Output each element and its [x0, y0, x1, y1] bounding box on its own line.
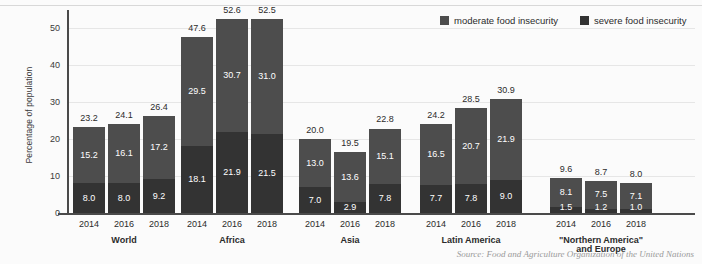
x-axis-year-label: 2016: [334, 220, 366, 229]
legend-item-severe: severe food insecurity: [580, 16, 686, 26]
bar-stack[interactable]: 24.116.18.0: [108, 124, 140, 213]
y-axis-tick-label: 10: [40, 172, 60, 181]
legend-item-moderate: moderate food insecurity: [440, 16, 558, 26]
bar-total-label: 24.1: [108, 111, 140, 120]
bar-segment-severe[interactable]: 1.2: [585, 209, 617, 213]
bar-segment-severe[interactable]: 7.0: [299, 187, 331, 213]
bar-segment-moderate[interactable]: 20.7: [455, 108, 487, 184]
bar-total-label: 20.0: [299, 126, 331, 135]
bar-segment-severe[interactable]: 2.9: [334, 202, 366, 213]
bar-stack[interactable]: 23.215.28.0: [73, 127, 105, 213]
bar-segment-moderate-label: 15.2: [80, 151, 98, 160]
chart-container: moderate food insecurity severe food ins…: [0, 0, 702, 264]
bar-segment-severe-label: 7.8: [465, 194, 478, 203]
bar-segment-severe-label: 1.0: [630, 203, 643, 212]
x-axis-line: [58, 213, 695, 215]
y-axis-tick-label: 50: [40, 24, 60, 33]
x-axis-year-label: 2018: [251, 220, 283, 229]
bar-segment-severe[interactable]: 7.7: [420, 185, 452, 213]
bar-total-label: 47.6: [181, 24, 213, 33]
x-axis-year-label: 2018: [620, 220, 652, 229]
bar-segment-moderate[interactable]: 30.7: [216, 19, 248, 132]
bar-segment-moderate-label: 21.9: [497, 135, 515, 144]
bar-segment-severe-label: 7.8: [379, 194, 392, 203]
bar-total-label: 30.9: [490, 86, 522, 95]
x-axis-year-label: 2016: [585, 220, 617, 229]
bar-segment-moderate[interactable]: 21.9: [490, 99, 522, 180]
bar-total-label: 28.5: [455, 95, 487, 104]
bar-total-label: 9.6: [550, 165, 582, 174]
bar-segment-moderate[interactable]: 16.5: [420, 124, 452, 185]
bar-stack[interactable]: 24.216.57.7: [420, 124, 452, 213]
bar-segment-moderate[interactable]: 31.0: [251, 19, 283, 133]
bar-total-label: 52.5: [251, 6, 283, 15]
y-axis-line: [67, 10, 69, 214]
x-axis-year-label: 2016: [216, 220, 248, 229]
bar-total-label: 8.0: [620, 170, 652, 179]
bar-stack[interactable]: 52.630.721.9: [216, 19, 248, 213]
x-axis-year-label: 2014: [73, 220, 105, 229]
bar-segment-severe-label: 1.5: [560, 203, 573, 212]
bar-stack[interactable]: 47.629.518.1: [181, 37, 213, 213]
top-divider: [0, 5, 702, 6]
x-axis-year-label: 2018: [490, 220, 522, 229]
bar-total-label: 52.6: [216, 6, 248, 15]
bar-total-label: 19.5: [334, 139, 366, 148]
bar-stack[interactable]: 30.921.99.0: [490, 99, 522, 213]
bar-segment-moderate-label: 13.0: [306, 159, 324, 168]
bar-total-label: 22.8: [369, 115, 401, 124]
bar-stack[interactable]: 52.531.021.5: [251, 19, 283, 213]
x-axis-year-label: 2016: [108, 220, 140, 229]
bar-segment-severe-label: 18.1: [188, 175, 206, 184]
y-axis-tick-label: 30: [40, 98, 60, 107]
bar-stack[interactable]: 9.68.11.5: [550, 178, 582, 213]
bar-stack[interactable]: 28.520.77.8: [455, 108, 487, 213]
x-axis-year-label: 2014: [299, 220, 331, 229]
bar-segment-severe-label: 9.0: [500, 192, 513, 201]
bar-segment-severe[interactable]: 8.0: [73, 183, 105, 213]
bar-segment-moderate[interactable]: 13.0: [299, 139, 331, 187]
bar-stack[interactable]: 8.77.51.2: [585, 181, 617, 213]
bar-total-label: 26.4: [143, 103, 175, 112]
bar-segment-severe-label: 8.0: [83, 194, 96, 203]
bar-segment-severe-label: 2.9: [344, 203, 357, 212]
legend-label-moderate: moderate food insecurity: [454, 16, 558, 26]
bar-segment-moderate[interactable]: 15.2: [73, 127, 105, 183]
bar-stack[interactable]: 26.417.29.2: [143, 116, 175, 213]
bar-total-label: 8.7: [585, 168, 617, 177]
bar-segment-moderate[interactable]: 17.2: [143, 116, 175, 179]
bar-segment-moderate-label: 17.2: [150, 143, 168, 152]
bar-segment-moderate[interactable]: 13.6: [334, 152, 366, 202]
bar-segment-severe[interactable]: 7.8: [369, 184, 401, 213]
bar-segment-severe[interactable]: 18.1: [181, 146, 213, 213]
bar-segment-moderate[interactable]: 29.5: [181, 37, 213, 146]
bar-segment-severe[interactable]: 1.5: [550, 207, 582, 213]
bar-segment-moderate-label: 16.5: [427, 150, 445, 159]
bar-segment-moderate-label: 16.1: [115, 149, 133, 158]
bar-segment-severe[interactable]: 7.8: [455, 184, 487, 213]
bar-segment-moderate-label: 29.5: [188, 87, 206, 96]
y-axis-tick-label: 20: [40, 135, 60, 144]
bar-segment-severe[interactable]: 21.9: [216, 132, 248, 213]
bar-segment-moderate[interactable]: 16.1: [108, 124, 140, 183]
x-axis-year-label: 2014: [181, 220, 213, 229]
bar-segment-severe-label: 7.0: [309, 196, 322, 205]
bar-segment-severe[interactable]: 9.2: [143, 179, 175, 213]
bar-segment-severe[interactable]: 1.0: [620, 209, 652, 213]
bar-stack[interactable]: 20.013.07.0: [299, 139, 331, 213]
bar-segment-moderate-label: 20.7: [462, 142, 480, 151]
bar-segment-severe-label: 1.2: [595, 203, 608, 212]
source-note: Source: Food and Agriculture Organizatio…: [457, 249, 694, 259]
bar-stack[interactable]: 22.815.17.8: [369, 128, 401, 213]
legend-swatch-severe: [580, 16, 589, 25]
bar-segment-moderate-label: 31.0: [258, 72, 276, 81]
bar-segment-severe-label: 21.5: [258, 169, 276, 178]
bar-segment-severe[interactable]: 9.0: [490, 180, 522, 213]
bar-segment-moderate[interactable]: 15.1: [369, 129, 401, 185]
bar-stack[interactable]: 19.513.62.9: [334, 152, 366, 213]
bar-segment-severe-label: 21.9: [223, 168, 241, 177]
bar-segment-severe[interactable]: 21.5: [251, 134, 283, 213]
x-axis-group-label: Latin America: [420, 236, 522, 245]
bar-segment-severe[interactable]: 8.0: [108, 183, 140, 213]
bar-stack[interactable]: 8.07.11.0: [620, 183, 652, 213]
